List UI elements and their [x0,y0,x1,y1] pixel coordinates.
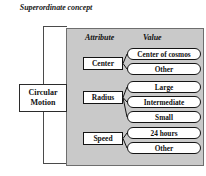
value-pill-speed-other[interactable]: Other [127,142,201,154]
value-pill-center-of-cosmos[interactable]: Center of cosmos [127,48,201,60]
attribute-value-panel: Attribute Value Center Radius Speed Cent… [66,28,204,166]
bracket-bottom-line [43,163,67,164]
value-pill-center-other[interactable]: Other [127,63,201,75]
attribute-box-speed[interactable]: Speed [83,132,123,145]
diagram-canvas: Superordinate concept Circular Motion At… [0,0,206,176]
attribute-box-radius[interactable]: Radius [83,91,123,104]
attribute-box-center[interactable]: Center [83,57,123,70]
bracket-top-line [43,26,67,27]
value-pill-24-hours[interactable]: 24 hours [127,127,201,139]
root-concept-box[interactable]: Circular Motion [19,84,67,112]
superordinate-concept-label: Superordinate concept [13,3,99,13]
value-pill-large[interactable]: Large [127,81,201,93]
value-pill-intermediate[interactable]: Intermediate [127,96,201,108]
value-pill-small[interactable]: Small [127,111,201,123]
